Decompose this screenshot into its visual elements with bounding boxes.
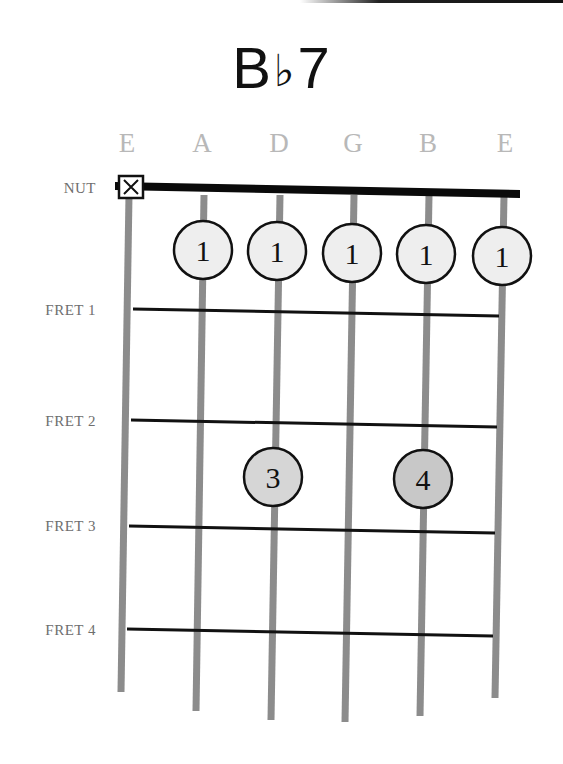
finger-dot-a: 1 bbox=[174, 221, 232, 279]
muted-string-marker bbox=[119, 176, 143, 198]
finger-number: 1 bbox=[345, 237, 360, 270]
finger-number: 1 bbox=[196, 234, 211, 267]
finger-number: 3 bbox=[266, 461, 281, 494]
fret-3 bbox=[129, 526, 495, 533]
fret-2 bbox=[131, 420, 497, 427]
string-low-e bbox=[121, 195, 129, 692]
fretboard: 1 1 1 1 1 3 4 bbox=[0, 0, 563, 764]
finger-dot-b-4: 4 bbox=[394, 450, 452, 508]
finger-dot-d-3: 3 bbox=[244, 448, 302, 506]
finger-number: 1 bbox=[270, 235, 285, 268]
fret-4 bbox=[127, 629, 493, 636]
finger-dot-high-e: 1 bbox=[473, 227, 531, 285]
finger-number: 1 bbox=[419, 238, 434, 271]
finger-dot-d: 1 bbox=[248, 222, 306, 280]
finger-number: 4 bbox=[416, 463, 431, 496]
fret-1 bbox=[133, 309, 499, 316]
nut bbox=[115, 182, 520, 198]
finger-dot-g: 1 bbox=[323, 224, 381, 282]
finger-number: 1 bbox=[495, 240, 510, 273]
finger-dot-b: 1 bbox=[397, 225, 455, 283]
